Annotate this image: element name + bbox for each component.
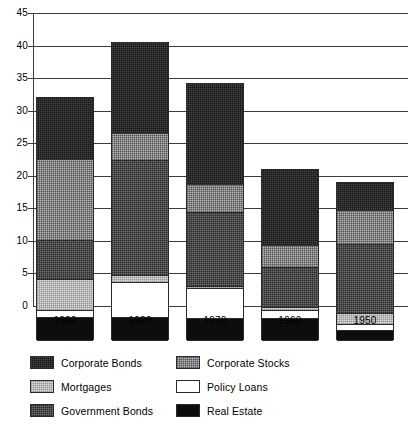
segment-1960-corporate-bonds — [262, 170, 318, 246]
segment-1990-government-bonds — [37, 241, 93, 281]
legend-item-real-estate: Real Estate — [176, 404, 262, 417]
bar-1970 — [186, 34, 244, 340]
y-tick-label-40: 40 — [0, 41, 28, 51]
bar-1990 — [36, 34, 94, 340]
stacked-bar-chart: 051015202530354045 19901980197019601950 — [0, 0, 415, 340]
legend-item-mortgages: Mortgages — [30, 380, 112, 393]
legend-item-corporate-stocks: Corporate Stocks — [176, 356, 290, 369]
legend-label: Real Estate — [207, 405, 262, 417]
segment-1990-mortgages — [37, 280, 93, 311]
y-tick-label-20: 20 — [0, 171, 28, 181]
tick-mark-5 — [28, 273, 33, 274]
bar-stack-1980 — [111, 42, 169, 340]
x-tick-label-1970: 1970 — [186, 315, 244, 326]
tick-mark-10 — [28, 241, 33, 242]
legend-swatch-icon-corporate-bonds — [30, 356, 54, 369]
y-tick-label-30: 30 — [0, 106, 28, 116]
x-tick-label-1960: 1960 — [261, 315, 319, 326]
y-tick-label-0: 0 — [0, 301, 28, 311]
bar-1950 — [336, 34, 394, 340]
segment-1950-real-estate — [337, 331, 393, 341]
gridline-45 — [33, 13, 408, 14]
segment-1950-corporate-stocks — [337, 211, 393, 245]
chart-legend: Corporate BondsCorporate StocksMortgages… — [0, 352, 415, 436]
legend-item-government-bonds: Government Bonds — [30, 404, 153, 417]
legend-swatch-icon-policy-loans — [176, 380, 200, 393]
segment-1990-corporate-bonds — [37, 98, 93, 160]
y-tick-label-5: 5 — [0, 268, 28, 278]
x-tick-label-1950: 1950 — [336, 315, 394, 326]
x-tick-label-1990: 1990 — [36, 315, 94, 326]
legend-swatch-icon-real-estate — [176, 404, 200, 417]
segment-1970-corporate-bonds — [187, 84, 243, 184]
tick-mark-20 — [28, 176, 33, 177]
y-axis-line — [33, 13, 34, 306]
bar-stack-1970 — [186, 83, 244, 340]
segment-1950-corporate-bonds — [337, 183, 393, 210]
bar-stack-1990 — [36, 97, 94, 340]
legend-item-policy-loans: Policy Loans — [176, 380, 268, 393]
segment-1980-corporate-stocks — [112, 134, 168, 161]
segment-1960-corporate-stocks — [262, 246, 318, 268]
y-tick-label-25: 25 — [0, 138, 28, 148]
x-tick-label-1980: 1980 — [111, 315, 169, 326]
segment-1950-government-bonds — [337, 245, 393, 315]
segment-1990-corporate-stocks — [37, 160, 93, 241]
segment-1970-corporate-stocks — [187, 185, 243, 214]
legend-label: Government Bonds — [61, 405, 153, 417]
bar-1980 — [111, 34, 169, 340]
segment-1980-corporate-bonds — [112, 43, 168, 134]
tick-mark-45 — [28, 13, 33, 14]
tick-mark-15 — [28, 208, 33, 209]
y-tick-label-45: 45 — [0, 8, 28, 18]
legend-swatch-icon-corporate-stocks — [176, 356, 200, 369]
legend-swatch-icon-mortgages — [30, 380, 54, 393]
segment-1970-government-bonds — [187, 213, 243, 287]
y-tick-label-15: 15 — [0, 203, 28, 213]
y-tick-label-35: 35 — [0, 73, 28, 83]
tick-mark-40 — [28, 46, 33, 47]
tick-mark-35 — [28, 78, 33, 79]
segment-1980-mortgages — [112, 276, 168, 283]
legend-item-corporate-bonds: Corporate Bonds — [30, 356, 142, 369]
tick-mark-30 — [28, 111, 33, 112]
legend-label: Mortgages — [61, 381, 112, 393]
segment-1980-policy-loans — [112, 283, 168, 318]
segment-1980-government-bonds — [112, 161, 168, 276]
legend-label: Corporate Bonds — [61, 357, 142, 369]
y-tick-label-10: 10 — [0, 236, 28, 246]
bar-1960 — [261, 34, 319, 340]
legend-label: Policy Loans — [207, 381, 268, 393]
legend-label: Corporate Stocks — [207, 357, 290, 369]
legend-swatch-icon-government-bonds — [30, 404, 54, 417]
tick-mark-25 — [28, 143, 33, 144]
segment-1960-government-bonds — [262, 268, 318, 308]
